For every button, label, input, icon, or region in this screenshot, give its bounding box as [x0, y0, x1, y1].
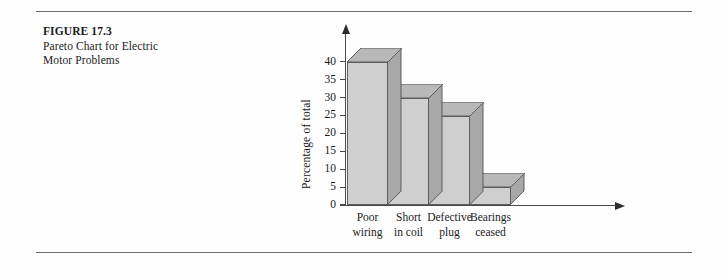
bar-side-face: [469, 102, 484, 205]
category-label-line: ceased: [462, 225, 519, 240]
pareto-chart: Percentage of total 0510152025303540 Poo…: [296, 20, 636, 250]
x-axis-category-label: Bearingsceased: [462, 210, 519, 239]
figure-caption-line-2: Motor Problems: [43, 53, 243, 68]
divider-bottom: [36, 252, 692, 253]
bar-top-face: [347, 48, 402, 63]
bar-side-face: [387, 48, 402, 205]
bar-side-face: [428, 84, 443, 205]
figure-page: FIGURE 17.3 Pareto Chart for Electric Mo…: [0, 0, 728, 280]
divider-top: [36, 11, 692, 12]
figure-caption: FIGURE 17.3 Pareto Chart for Electric Mo…: [43, 24, 243, 68]
bar-front-face: [347, 62, 388, 205]
chart-plot-area: Percentage of total 0510152025303540 Poo…: [296, 20, 636, 250]
category-label-line: Bearings: [462, 210, 519, 225]
x-axis-category-labels: PoorwiringShortin coilDefectiveplugBeari…: [296, 210, 636, 244]
figure-caption-line-1: Pareto Chart for Electric: [43, 39, 243, 54]
figure-number: FIGURE 17.3: [43, 24, 243, 39]
